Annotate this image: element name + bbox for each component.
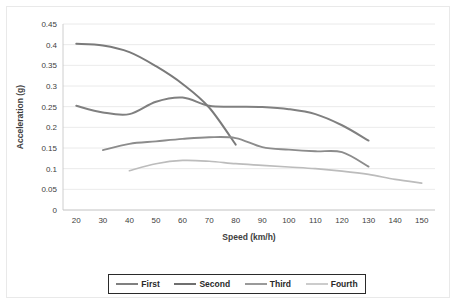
legend-label-second: Second (199, 279, 230, 289)
x-axis-tick-label: 70 (205, 216, 214, 225)
legend-swatch-first (116, 283, 138, 285)
y-axis-tick-label: 0.1 (46, 165, 58, 174)
x-axis-title: Speed (km/h) (222, 232, 276, 242)
x-axis-tick-label: 150 (415, 216, 429, 225)
x-axis-tick-label: 30 (98, 216, 107, 225)
line-chart: 00.050.10.150.20.250.30.350.40.452030405… (7, 7, 451, 299)
series-line-second (76, 44, 235, 145)
chart-legend: First Second Third Fourth (108, 274, 366, 294)
y-axis-tick-label: 0.25 (41, 103, 57, 112)
legend-swatch-fourth (306, 283, 328, 285)
legend-item-second[interactable]: Second (174, 279, 230, 289)
x-axis-tick-label: 130 (362, 216, 376, 225)
legend-item-first[interactable]: First (116, 279, 159, 289)
legend-swatch-third (245, 283, 267, 285)
y-axis-tick-label: 0 (53, 206, 58, 215)
x-axis-tick-label: 40 (125, 216, 134, 225)
legend-label-first: First (141, 279, 159, 289)
x-axis-tick-label: 100 (282, 216, 296, 225)
x-axis-tick-label: 20 (72, 216, 81, 225)
y-axis-tick-label: 0.2 (46, 123, 58, 132)
legend-item-fourth[interactable]: Fourth (306, 279, 358, 289)
x-axis-tick-label: 110 (309, 216, 322, 225)
series-line-third (103, 137, 369, 167)
y-axis-tick-label: 0.35 (41, 61, 57, 70)
y-axis-tick-label: 0.4 (46, 41, 58, 50)
y-axis-tick-label: 0.15 (41, 144, 57, 153)
legend-label-third: Third (270, 279, 291, 289)
x-axis-tick-label: 50 (152, 216, 161, 225)
x-axis-tick-label: 140 (388, 216, 402, 225)
legend-swatch-second (174, 283, 196, 285)
legend-item-third[interactable]: Third (245, 279, 291, 289)
chart-frame: 00.050.10.150.20.250.30.350.40.452030405… (6, 6, 450, 298)
x-axis-tick-label: 120 (335, 216, 349, 225)
y-axis-title: Acceleration (g) (15, 85, 25, 149)
x-axis-tick-label: 80 (231, 216, 240, 225)
x-axis-tick-label: 90 (258, 216, 267, 225)
y-axis-tick-label: 0.05 (41, 185, 57, 194)
y-axis-tick-label: 0.3 (46, 82, 58, 91)
series-line-first (76, 97, 368, 140)
legend-label-fourth: Fourth (331, 279, 358, 289)
x-axis-tick-label: 60 (178, 216, 187, 225)
y-axis-tick-label: 0.45 (41, 20, 57, 29)
chart-plot-area: 00.050.10.150.20.250.30.350.40.452030405… (7, 7, 451, 299)
series-line-fourth (129, 160, 421, 183)
